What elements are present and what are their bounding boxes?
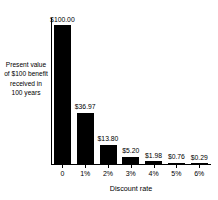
x-tick-mark	[199, 165, 200, 168]
bar-group: $0.29	[188, 18, 211, 164]
x-tick-mark	[85, 165, 86, 168]
bar[interactable]	[145, 161, 162, 164]
bar-group: $36.97	[74, 18, 97, 164]
bar[interactable]	[100, 145, 117, 164]
x-tick-mark	[154, 165, 155, 168]
bar-value-label: $1.98	[145, 152, 162, 160]
bar-value-label: $100.00	[50, 16, 75, 24]
bar-value-label: $0.29	[191, 154, 208, 162]
bar-group: $0.76	[165, 18, 188, 164]
bar[interactable]	[54, 25, 71, 164]
bar[interactable]	[191, 163, 208, 164]
x-tick-label: 3%	[119, 169, 142, 178]
chart-figure: Present value of $100 benefit received i…	[0, 0, 218, 200]
x-tick-label: 4%	[142, 169, 165, 178]
x-tick-label: 6%	[188, 169, 211, 178]
x-tick-label: 1%	[74, 169, 97, 178]
bar-group: $1.98	[142, 18, 165, 164]
x-axis-title: Discount rate	[51, 184, 211, 193]
bar-group: $100.00	[51, 18, 74, 164]
bar[interactable]	[77, 113, 94, 164]
x-tick-label: 0	[51, 169, 74, 178]
x-tick-mark	[62, 165, 63, 168]
x-tick-label: 5%	[165, 169, 188, 178]
plot-area: $100.00$36.97$13.80$5.20$1.98$0.76$0.29	[51, 18, 211, 164]
x-tick-label: 2%	[97, 169, 120, 178]
bar-value-label: $36.97	[75, 103, 96, 111]
bar-group: $5.20	[119, 18, 142, 164]
bar-value-label: $0.76	[168, 153, 185, 161]
x-tick-mark	[108, 165, 109, 168]
x-tick-mark	[131, 165, 132, 168]
bar-value-label: $13.80	[98, 135, 119, 143]
bar[interactable]	[168, 163, 185, 164]
bar[interactable]	[122, 157, 139, 164]
bar-value-label: $5.20	[122, 147, 139, 155]
x-tick-mark	[176, 165, 177, 168]
y-axis-label: Present value of $100 benefit received i…	[1, 60, 51, 98]
bar-group: $13.80	[97, 18, 120, 164]
